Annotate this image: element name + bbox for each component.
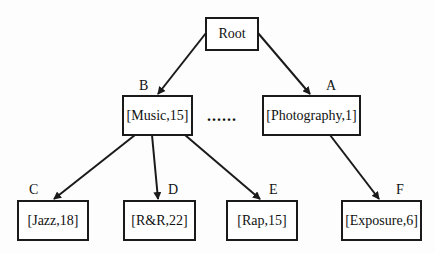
node-root-label: Root <box>218 26 245 42</box>
node-d-letter: D <box>168 183 178 197</box>
node-f-exposure: [Exposure,6] <box>341 200 422 241</box>
node-root: Root <box>205 17 259 51</box>
node-c-jazz: [Jazz,18] <box>17 200 89 241</box>
node-e-letter: E <box>269 183 278 197</box>
node-b-music: [Music,15] <box>122 95 193 136</box>
ellipsis: ...... <box>207 108 237 124</box>
node-b-label: [Music,15] <box>127 108 189 124</box>
node-d-rnr: [R&R,22] <box>123 200 196 241</box>
edge-root-a <box>258 33 310 94</box>
node-d-label: [R&R,22] <box>131 213 187 229</box>
edge-b-e <box>185 135 260 199</box>
edge-b-d <box>152 135 158 199</box>
node-b-letter: B <box>139 79 148 93</box>
node-a-letter: A <box>326 79 336 93</box>
node-e-rap: [Rap,15] <box>226 200 298 241</box>
edge-b-c <box>54 135 135 199</box>
edge-a-f <box>330 135 379 199</box>
node-f-letter: F <box>396 183 404 197</box>
node-a-photography: [Photography,1] <box>262 95 361 136</box>
node-f-label: [Exposure,6] <box>345 213 418 229</box>
edge-root-b <box>158 33 206 94</box>
node-e-label: [Rap,15] <box>237 213 286 229</box>
node-c-letter: C <box>29 183 38 197</box>
node-a-label: [Photography,1] <box>266 108 356 124</box>
node-c-label: [Jazz,18] <box>28 213 79 229</box>
